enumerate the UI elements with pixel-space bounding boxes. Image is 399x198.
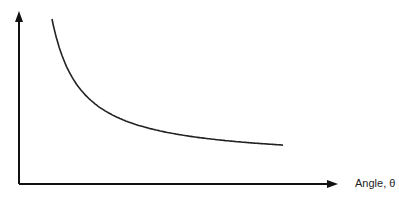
x-axis-label: Angle, θ (355, 177, 395, 189)
curve-line (52, 19, 283, 145)
y-axis-arrow-icon (15, 11, 23, 22)
diagram-canvas (0, 0, 399, 198)
x-axis-arrow-icon (327, 180, 338, 188)
